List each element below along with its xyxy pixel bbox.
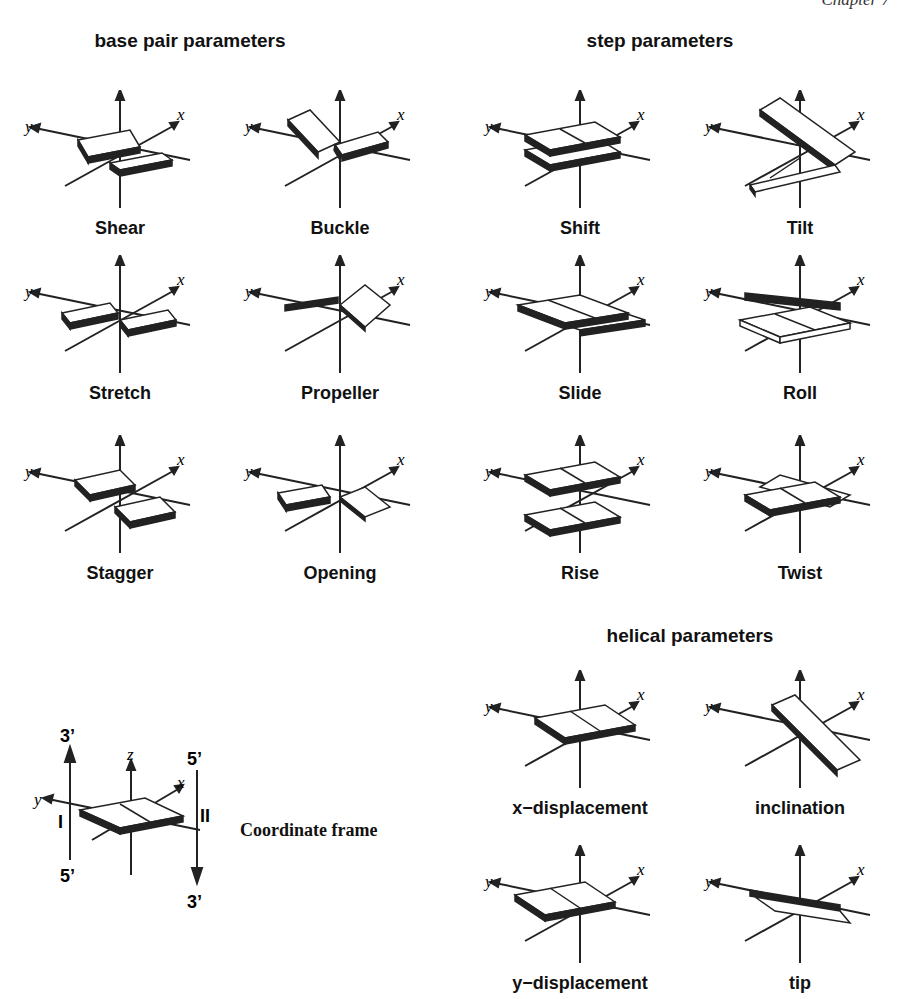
- rise-diagram: y x z: [480, 435, 680, 565]
- section-title-helical: helical parameters: [560, 625, 820, 647]
- panel-label-x-displacement: x−displacement: [480, 798, 680, 819]
- z-axis-label: z: [575, 670, 583, 673]
- slide-diagram: y x z: [480, 255, 680, 385]
- twist-diagram: y x z: [700, 435, 900, 565]
- panel-tilt: y x z Tilt: [700, 90, 900, 265]
- x-axis-label: x: [636, 105, 645, 124]
- y-axis-label: y: [243, 282, 253, 301]
- panel-shear: y x z Shear: [20, 90, 220, 265]
- y-axis-label: y: [23, 282, 33, 301]
- shear-diagram: y x z: [20, 90, 220, 220]
- z-axis-label: z: [575, 845, 583, 848]
- shift-diagram: y x z: [480, 90, 680, 220]
- y-axis-label: y: [483, 872, 493, 891]
- x-axis-label: x: [856, 860, 865, 879]
- x-axis-label: x: [396, 270, 405, 289]
- y-axis-label: y: [23, 117, 33, 136]
- panel-label-stretch: Stretch: [20, 383, 220, 404]
- strand-II-top: 5’: [187, 749, 202, 769]
- section-title-base-pair: base pair parameters: [60, 30, 320, 52]
- panel-label-shift: Shift: [480, 218, 680, 239]
- z-axis-label: z: [575, 255, 583, 258]
- panel-label-y-displacement: y−displacement: [480, 973, 680, 994]
- y-axis-label: y: [483, 117, 493, 136]
- panel-label-stagger: Stagger: [20, 563, 220, 584]
- panel-buckle: y x z Buckle: [240, 90, 440, 265]
- z-axis-label: z: [115, 90, 123, 93]
- x-axis-label: x: [856, 105, 865, 124]
- panel-label-opening: Opening: [240, 563, 440, 584]
- z-axis-label: z: [575, 90, 583, 93]
- y-axis-label: y: [703, 117, 713, 136]
- z-axis-label: z: [795, 845, 803, 848]
- x-axis-label: x: [636, 860, 645, 879]
- panel-label-propeller: Propeller: [240, 383, 440, 404]
- panel-x-displacement: y x z x−displacement: [480, 670, 680, 845]
- panel-label-shear: Shear: [20, 218, 220, 239]
- z-axis-label: z: [335, 255, 343, 258]
- y-axis-label: y: [23, 462, 33, 481]
- panel-label-buckle: Buckle: [240, 218, 440, 239]
- y-axis-label: y: [703, 462, 713, 481]
- panel-inclination: y x z inclination: [700, 670, 900, 845]
- stretch-diagram: y x z: [20, 255, 220, 385]
- y-axis-label: y: [483, 697, 493, 716]
- z-axis-label: z: [335, 90, 343, 93]
- y-axis-label: y: [32, 790, 42, 809]
- y-axis-label: y: [243, 117, 253, 136]
- panel-label-rise: Rise: [480, 563, 680, 584]
- y-axis-label: y: [483, 462, 493, 481]
- z-axis-label: z: [115, 255, 123, 258]
- opening-diagram: y x z: [240, 435, 440, 565]
- y-axis-label: y: [703, 282, 713, 301]
- panel-twist: y x z Twist: [700, 435, 900, 610]
- coordinate-frame: y x z 3’ 5’ I 5’ 3’ II Coordinate frame: [20, 720, 440, 920]
- buckle-diagram: y x z: [240, 90, 440, 220]
- y-axis-label: y: [483, 282, 493, 301]
- x-axis-label: x: [856, 450, 865, 469]
- y-axis-label: y: [703, 872, 713, 891]
- panel-label-twist: Twist: [700, 563, 900, 584]
- tip-diagram: y x z: [700, 845, 900, 975]
- z-axis-label: z: [795, 435, 803, 438]
- section-title-step: step parameters: [530, 30, 790, 52]
- x-axis-label: x: [856, 685, 865, 704]
- x-displacement-diagram: y x z: [480, 670, 680, 800]
- x-axis-label: x: [396, 450, 405, 469]
- panel-propeller: y x z Propeller: [240, 255, 440, 430]
- propeller-diagram: y x z: [240, 255, 440, 385]
- x-axis-label: x: [396, 105, 405, 124]
- z-axis-label: z: [575, 435, 583, 438]
- panel-tip: y x z tip: [700, 845, 900, 999]
- x-axis-label: x: [176, 270, 185, 289]
- panel-stagger: y x z Stagger: [20, 435, 220, 610]
- panel-shift: y x z Shift: [480, 90, 680, 265]
- x-axis-label: x: [856, 270, 865, 289]
- z-axis-label: z: [795, 255, 803, 258]
- z-axis-label: z: [115, 435, 123, 438]
- roll-diagram: y x z: [700, 255, 900, 385]
- panel-y-displacement: y x z y−displacement: [480, 845, 680, 999]
- x-axis-label: x: [636, 685, 645, 704]
- panel-label-tilt: Tilt: [700, 218, 900, 239]
- strand-I-top: 3’: [60, 726, 75, 746]
- x-axis-label: x: [176, 450, 185, 469]
- panel-slide: y x z Slide: [480, 255, 680, 430]
- strand-II-label: II: [200, 806, 210, 826]
- x-axis-label: x: [636, 270, 645, 289]
- inclination-diagram: y x z: [700, 670, 900, 800]
- panel-label-roll: Roll: [700, 383, 900, 404]
- strand-I-bottom: 5’: [60, 866, 75, 886]
- panel-label-slide: Slide: [480, 383, 680, 404]
- z-axis-label: z: [795, 90, 803, 93]
- z-axis-label: z: [335, 435, 343, 438]
- coordinate-frame-title: Coordinate frame: [240, 820, 377, 841]
- x-axis-label: x: [636, 450, 645, 469]
- y-axis-label: y: [243, 462, 253, 481]
- running-header: Chapter 7: [822, 0, 890, 10]
- x-axis-label: x: [176, 773, 185, 792]
- panel-label-tip: tip: [700, 973, 900, 994]
- panel-opening: y x z Opening: [240, 435, 440, 610]
- panel-roll: y x z Roll: [700, 255, 900, 430]
- panel-stretch: y x z Stretch: [20, 255, 220, 430]
